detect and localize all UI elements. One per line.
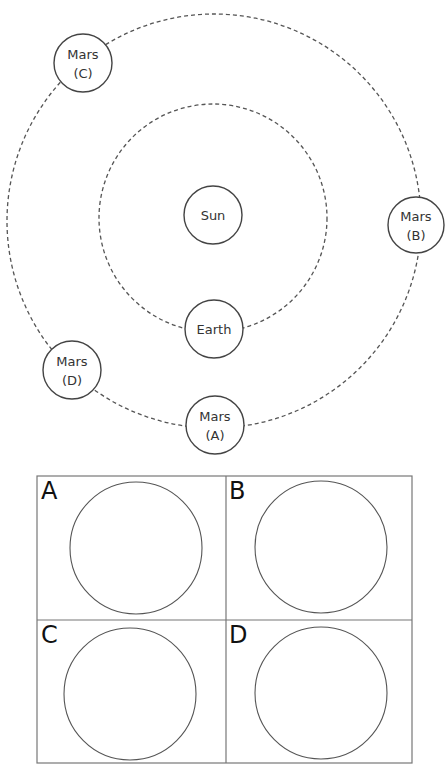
mars-b-circle (388, 197, 444, 253)
mars-b-label-name: Mars (400, 209, 432, 224)
mars-c-label-letter: (C) (73, 66, 92, 81)
mars-c-body: Mars (C) (54, 34, 112, 92)
panel-c-letter: C (41, 621, 58, 649)
answer-grid: A B C D (37, 476, 412, 763)
sun-label: Sun (201, 208, 226, 223)
mars-c-label-name: Mars (67, 47, 99, 62)
earth-body: Earth (185, 300, 243, 358)
mars-d-body: Mars (D) (43, 341, 101, 399)
mars-d-label-letter: (D) (62, 373, 82, 388)
panel-c-phase-circle (64, 628, 196, 760)
panel-b[interactable]: B (229, 477, 387, 613)
mars-a-label-letter: (A) (205, 428, 224, 443)
panel-b-phase-circle (255, 481, 387, 613)
panel-a-phase-circle (70, 482, 202, 614)
mars-b-body: Mars (B) (388, 197, 444, 253)
panel-d-letter: D (229, 621, 247, 649)
mars-a-body: Mars (A) (186, 396, 244, 454)
diagram-canvas: Sun Earth Mars (A) Mars (B) Mars (C) Mar… (0, 0, 448, 767)
mars-b-label-letter: (B) (406, 228, 425, 243)
mars-a-circle (186, 396, 244, 454)
panel-a-letter: A (41, 477, 58, 505)
mars-c-circle (54, 34, 112, 92)
mars-d-label-name: Mars (56, 354, 88, 369)
panel-c[interactable]: C (41, 621, 196, 760)
mars-d-circle (43, 341, 101, 399)
sun-body: Sun (184, 186, 242, 244)
panel-d[interactable]: D (229, 621, 387, 759)
earth-label: Earth (197, 322, 232, 337)
panel-a[interactable]: A (41, 477, 202, 614)
mars-a-label-name: Mars (199, 409, 231, 424)
panel-b-letter: B (229, 477, 245, 505)
panel-d-phase-circle (255, 627, 387, 759)
